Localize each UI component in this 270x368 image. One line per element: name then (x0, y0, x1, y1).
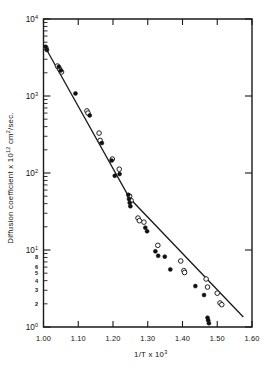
data-point-filled-circle-2 (57, 65, 61, 69)
y-tick-label-10e3: 103 (26, 91, 38, 101)
data-point-filled-circle-10 (126, 193, 130, 197)
data-point-filled-circle-11 (127, 197, 131, 201)
data-point-open-circle-20 (205, 285, 210, 290)
data-point-filled-circle-19 (168, 267, 172, 271)
y-minor-label-4: 4 (35, 278, 39, 284)
x-tick-label-1.30: 1.30 (140, 334, 155, 343)
data-point-filled-circle-15 (145, 229, 149, 233)
data-point-open-circle-21 (215, 291, 220, 296)
y-minor-label-5: 5 (35, 270, 38, 276)
data-point-open-circle-18 (182, 270, 187, 275)
data-point-open-circle-6 (97, 131, 102, 136)
x-tick-label-1.20: 1.20 (105, 334, 120, 343)
data-point-filled-circle-17 (156, 254, 160, 258)
y-tick-label-10e0: 100 (26, 322, 38, 332)
data-point-filled-circle-1 (45, 48, 49, 52)
data-point-filled-circle-6 (100, 141, 104, 145)
data-point-open-circle-16 (178, 259, 183, 264)
data-point-filled-circle-7 (110, 159, 114, 163)
data-point-open-circle-13 (137, 218, 142, 223)
data-point-filled-circle-5 (88, 113, 92, 117)
x-axis-title: 1/T x 103 (134, 349, 167, 359)
x-tick-label-1.40: 1.40 (175, 334, 190, 343)
y-axis-title: Diffusion coefficient x 1012 cm2/sec. (5, 112, 15, 244)
y-tick-label-10e2: 102 (26, 168, 38, 178)
data-point-filled-circle-24 (207, 321, 211, 325)
y-minor-label-8: 8 (35, 254, 38, 260)
x-tick-label-1.60: 1.60 (244, 334, 259, 343)
data-point-filled-circle-4 (73, 91, 77, 95)
data-point-open-circle-14 (142, 220, 147, 225)
data-point-open-circle-9 (117, 167, 122, 172)
data-point-open-circle-15 (156, 243, 161, 248)
fit-line-two-segment-least-squares-fit (45, 47, 243, 317)
data-point-filled-circle-3 (59, 68, 63, 72)
y-minor-label-2: 2 (35, 301, 38, 307)
plot-frame (44, 19, 253, 327)
data-point-open-circle-19 (204, 277, 209, 282)
data-point-filled-circle-20 (193, 284, 197, 288)
x-tick-label-1.50: 1.50 (210, 334, 225, 343)
data-point-filled-circle-9 (118, 172, 122, 176)
y-minor-label-3: 3 (35, 287, 38, 293)
data-point-filled-circle-13 (128, 204, 132, 208)
x-tick-label-1.00: 1.00 (36, 334, 51, 343)
data-point-filled-circle-18 (163, 255, 167, 259)
data-point-open-circle-23 (219, 302, 224, 307)
x-tick-label-1.10: 1.10 (71, 334, 86, 343)
data-point-filled-circle-16 (153, 249, 157, 253)
chart-canvas: 1.001.101.201.301.401.501.60100101102103… (0, 0, 270, 368)
arrhenius-diffusion-plot: 1.001.101.201.301.401.501.60100101102103… (0, 0, 270, 368)
data-point-filled-circle-8 (113, 174, 117, 178)
data-point-filled-circle-21 (202, 293, 206, 297)
y-minor-label-6: 6 (35, 264, 38, 270)
y-tick-label-10e4: 104 (26, 14, 38, 24)
